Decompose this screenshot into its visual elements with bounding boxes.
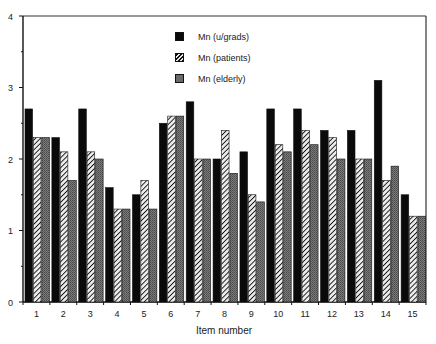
bar [60, 152, 68, 302]
x-axis: 123456789101112131415 [23, 302, 426, 319]
bar [195, 159, 203, 302]
legend-label: Mn (u/grads) [198, 32, 249, 42]
bar [329, 138, 337, 302]
bar [383, 180, 391, 302]
bar [391, 166, 399, 302]
bar [374, 80, 382, 302]
legend-swatch-hatched-icon [175, 53, 184, 62]
legend-item-elderly: Mn (elderly) [175, 68, 251, 89]
x-tick-label: 5 [141, 309, 146, 319]
legend-label: Mn (patients) [198, 53, 251, 63]
bar [122, 209, 130, 302]
y-axis: 01234 [8, 12, 23, 308]
x-tick-label: 12 [327, 309, 337, 319]
bar [159, 123, 167, 302]
legend-swatch-gray-icon [175, 74, 184, 83]
bars [25, 80, 426, 302]
bar [213, 159, 221, 302]
x-tick-label: 7 [195, 309, 200, 319]
bar [248, 195, 256, 302]
x-tick-label: 3 [88, 309, 93, 319]
y-tick-label: 4 [8, 12, 13, 22]
x-tick-label: 6 [168, 309, 173, 319]
bar [257, 202, 265, 302]
bar [221, 130, 229, 302]
bar [267, 109, 275, 302]
legend: Mn (u/grads) Mn (patients) Mn (elderly) [175, 26, 251, 89]
bar [418, 216, 426, 302]
x-tick-label: 8 [222, 309, 227, 319]
bar [294, 109, 302, 302]
bar [321, 130, 329, 302]
bar [42, 138, 50, 302]
x-tick-label: 15 [408, 309, 418, 319]
bar [337, 159, 345, 302]
bar [284, 152, 292, 302]
bar [176, 116, 184, 302]
bar [79, 109, 87, 302]
bar [401, 195, 409, 302]
bar [347, 130, 355, 302]
x-tick-label: 11 [300, 309, 309, 319]
bar [364, 159, 372, 302]
bar [186, 102, 194, 302]
bar [106, 188, 114, 302]
bar [302, 130, 310, 302]
bar [52, 138, 60, 302]
x-tick-label: 10 [273, 309, 283, 319]
x-axis-label: Item number [196, 325, 253, 336]
x-tick-label: 4 [115, 309, 120, 319]
bar [132, 195, 140, 302]
x-tick-label: 14 [381, 309, 391, 319]
bar [203, 159, 211, 302]
bar [114, 209, 122, 302]
bar [168, 116, 176, 302]
bar [141, 180, 149, 302]
y-tick-label: 1 [8, 226, 13, 236]
bar [310, 145, 318, 302]
bar [25, 109, 33, 302]
legend-item-patients: Mn (patients) [175, 47, 251, 68]
bar [33, 138, 41, 302]
bar [410, 216, 418, 302]
legend-item-ugrads: Mn (u/grads) [175, 26, 251, 47]
x-tick-label: 1 [34, 309, 39, 319]
y-tick-label: 0 [8, 298, 13, 308]
x-tick-label: 2 [61, 309, 66, 319]
legend-label: Mn (elderly) [198, 74, 246, 84]
bar [87, 152, 95, 302]
bar [240, 152, 248, 302]
bar [149, 209, 157, 302]
x-tick-label: 9 [249, 309, 254, 319]
y-tick-label: 3 [8, 83, 13, 93]
x-tick-label: 13 [354, 309, 364, 319]
y-tick-label: 2 [8, 155, 13, 165]
bar [69, 180, 77, 302]
bar [230, 173, 238, 302]
legend-swatch-solid-icon [175, 32, 184, 41]
bar [356, 159, 364, 302]
bar [275, 145, 283, 302]
bar [96, 159, 104, 302]
